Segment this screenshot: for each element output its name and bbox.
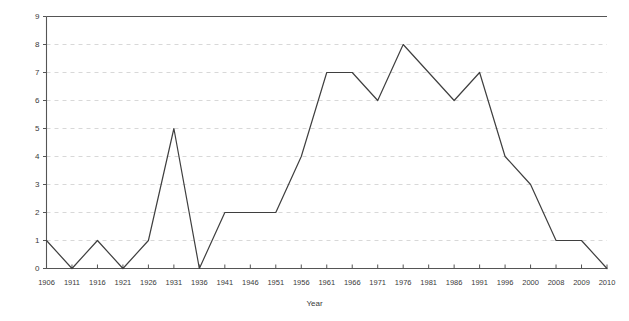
x-tick-label-1916: 1916	[89, 278, 106, 287]
y-tick-label-2: 2	[20, 209, 40, 217]
grid-lines	[47, 45, 608, 269]
x-axis-title: Year	[0, 299, 629, 308]
x-tick-label-1991: 1991	[471, 278, 488, 287]
y-tick-label-1: 1	[20, 237, 40, 245]
x-tick-label-1966: 1966	[344, 278, 361, 287]
y-tick-label-8: 8	[20, 41, 40, 49]
y-tick-label-6: 6	[20, 97, 40, 105]
x-tick-label-1931: 1931	[166, 278, 183, 287]
y-tick-label-5: 5	[20, 125, 40, 133]
plot-area	[0, 0, 629, 321]
x-tick-label-1921: 1921	[115, 278, 132, 287]
x-tick-label-2010: 2010	[599, 278, 616, 287]
x-tick-label-1976: 1976	[395, 278, 412, 287]
x-axis-ticks	[47, 265, 608, 269]
y-tick-label-3: 3	[20, 181, 40, 189]
line-chart: Number of Conferences Year 0123456789 19…	[0, 0, 629, 321]
x-tick-label-1906: 1906	[38, 278, 55, 287]
x-tick-label-1941: 1941	[216, 278, 233, 287]
y-tick-label-4: 4	[20, 153, 40, 161]
x-tick-label-1981: 1981	[420, 278, 437, 287]
x-tick-label-1926: 1926	[140, 278, 157, 287]
x-tick-label-1956: 1956	[293, 278, 310, 287]
x-tick-label-1946: 1946	[242, 278, 259, 287]
x-tick-label-1911: 1911	[64, 278, 80, 287]
x-tick-label-1936: 1936	[191, 278, 208, 287]
x-tick-label-1996: 1996	[497, 278, 514, 287]
y-tick-label-9: 9	[20, 13, 40, 21]
x-tick-label-2009: 2009	[573, 278, 590, 287]
x-tick-label-1961: 1961	[318, 278, 335, 287]
x-tick-label-2000: 2000	[522, 278, 539, 287]
y-tick-label-0: 0	[20, 265, 40, 273]
y-tick-label-7: 7	[20, 69, 40, 77]
x-tick-label-1951: 1951	[267, 278, 284, 287]
x-tick-label-1986: 1986	[446, 278, 463, 287]
x-tick-label-2008: 2008	[548, 278, 565, 287]
x-tick-label-1971: 1971	[369, 278, 386, 287]
